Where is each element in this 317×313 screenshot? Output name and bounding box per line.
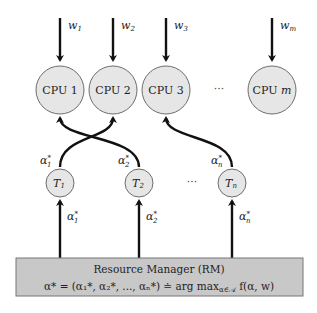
workload-labels: w1 w2 w3 wm [68,19,296,33]
resource-manager[interactable]: Resource Manager (RM) α* = (α₁*, α₂*, ..… [16,258,303,296]
resource-allocation-diagram: w1 w2 w3 wm CPU 1 CPU 2 CPU 3 ··· CPU m … [0,0,317,313]
assignment-arrow-tn-cpu3 [166,118,232,167]
cpu-ellipsis: ··· [214,83,225,96]
alpha-label-bottom-n: α*n [239,210,251,225]
alpha-label-top-1: α*1 [40,154,51,169]
assignment-arrows [60,118,232,167]
cpu-label: CPU 1 [42,84,77,97]
alpha-label-top-2: α*2 [118,154,130,169]
cpu-node-2[interactable]: CPU 2 [89,66,137,114]
task-nodes: T1 T2 ··· Tn [46,169,246,197]
cpu-label: CPU 2 [95,84,130,97]
alpha-label-top-n: α*n [211,154,223,169]
workload-label-1: w1 [68,19,82,33]
task-node-n[interactable]: Tn [218,169,246,197]
allocation-labels: α*1 α*2 α*n [67,210,251,225]
alpha-label-bottom-2: α*2 [146,210,158,225]
workload-label-2: w2 [121,19,135,33]
cpu-node-3[interactable]: CPU 3 [142,66,190,114]
assignment-arrow-t1-cpu2 [60,118,113,167]
workload-label-3: w3 [174,19,188,33]
rm-title: Resource Manager (RM) [93,263,224,275]
cpu-label: CPU m [253,84,292,97]
cpu-nodes: CPU 1 CPU 2 CPU 3 ··· CPU m [36,66,296,114]
workload-arrows [60,18,272,60]
cpu-label: CPU 3 [148,84,183,97]
alpha-label-bottom-1: α*1 [67,210,78,225]
task-node-1[interactable]: T1 [46,169,74,197]
cpu-node-m[interactable]: CPU m [248,66,296,114]
assignment-labels: α*1 α*2 α*n [40,154,223,169]
cpu-node-1[interactable]: CPU 1 [36,66,84,114]
task-ellipsis: ··· [187,176,198,189]
task-node-2[interactable]: T2 [125,169,153,197]
rm-formula: α* = (α₁*, α₂*, ..., αₙ*) ≐ arg maxα∈𝒜 f… [44,280,274,294]
workload-label-m: wm [280,19,296,33]
